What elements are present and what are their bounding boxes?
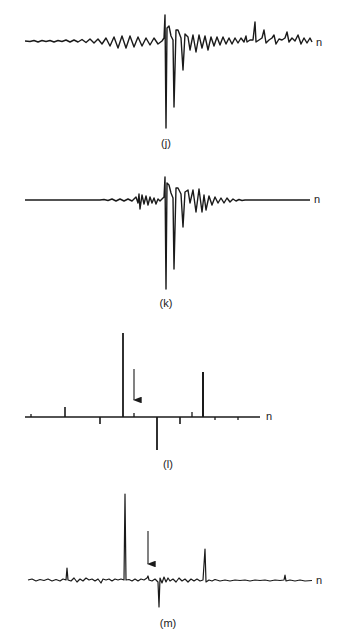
panel-k-axis-label: n [314,194,320,205]
panel-k-caption: (k) [160,298,173,309]
signal-plots [0,0,341,639]
panel-m-caption: (m) [160,618,177,629]
panel-m-axis-label: n [316,575,322,586]
figure: n n n n (j) (k) (l) (m) [0,0,341,639]
panel-m-waveform [28,494,312,607]
panel-l-caption: (l) [163,459,173,470]
panel-l-stems [25,333,260,450]
panel-j-axis-label: n [316,37,322,48]
panel-j-waveform [25,15,312,128]
panel-l-axis-label: n [266,411,272,422]
panel-k-waveform [25,177,310,289]
panel-j-caption: (j) [161,138,171,149]
